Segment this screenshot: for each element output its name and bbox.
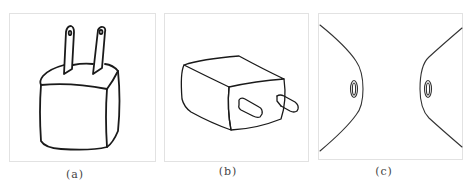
caption-a: (a)	[45, 168, 105, 181]
caption-b: (b)	[198, 165, 258, 178]
caption-c: (c)	[354, 165, 414, 178]
panel-a	[9, 13, 156, 162]
panel-c	[318, 13, 463, 160]
curved-profile-drawing	[319, 14, 464, 161]
plug-adapter-upright-drawing	[10, 14, 157, 163]
panel-b	[164, 13, 309, 162]
charger-isometric-drawing	[165, 14, 310, 163]
